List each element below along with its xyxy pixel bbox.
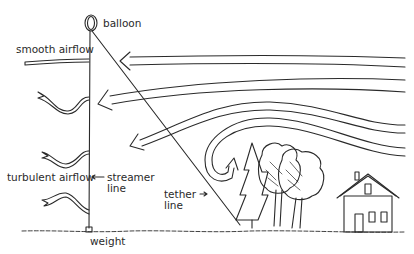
streamer-line — [89, 31, 90, 228]
airflow-arrow-second — [98, 79, 405, 110]
turbulent-airflow-label: turbulent airflow — [7, 172, 94, 183]
turbulent-streamer-3 — [42, 193, 89, 214]
house-icon — [337, 172, 399, 232]
turbulent-streamer-2 — [42, 151, 89, 168]
diagram-drawing — [0, 0, 414, 254]
smooth-airflow-label: smooth airflow — [16, 44, 94, 55]
streamer-line-label-2: line — [107, 183, 126, 194]
deciduous-tree-2-icon — [279, 149, 324, 228]
weight-label: weight — [90, 236, 125, 247]
airflow-curl-arrow — [205, 118, 405, 181]
balloon-icon — [85, 15, 97, 31]
turbulent-streamer-1 — [38, 92, 89, 114]
airflow-arrow-top — [120, 52, 405, 70]
airflow-diagram: balloon smooth airflow turbulent airflow… — [0, 0, 414, 254]
tether-line-label-2: line — [164, 200, 183, 211]
balloon-label: balloon — [103, 18, 141, 29]
smooth-streamer — [25, 59, 89, 65]
tether-pointer-arrow — [200, 192, 207, 196]
